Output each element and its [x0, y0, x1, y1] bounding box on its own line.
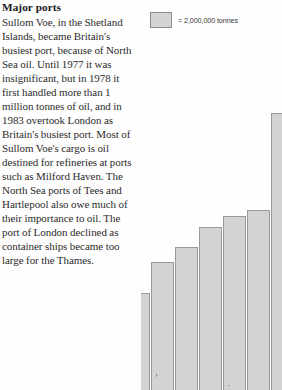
bar-birmingham — [151, 262, 174, 390]
article-body-text: Sullom Voe, in the Shetland Islands, bec… — [2, 15, 138, 268]
bar-partial-left — [141, 293, 150, 390]
bar-milford — [271, 113, 282, 390]
article-heading: Major ports — [2, 1, 138, 14]
bar-immingham — [199, 227, 222, 390]
page-root: Major ports Sullom Voe, in the Shetland … — [0, 0, 282, 390]
bar-tees — [223, 216, 246, 390]
bar-forth — [247, 210, 270, 390]
bar-southampton — [175, 247, 198, 390]
chart-plot-area: nninghamtonapool — [141, 0, 282, 390]
bar-chart-panel: = 2,000,000 tonnes nninghamtonapool — [141, 0, 282, 390]
article-column: Major ports Sullom Voe, in the Shetland … — [2, 1, 138, 321]
